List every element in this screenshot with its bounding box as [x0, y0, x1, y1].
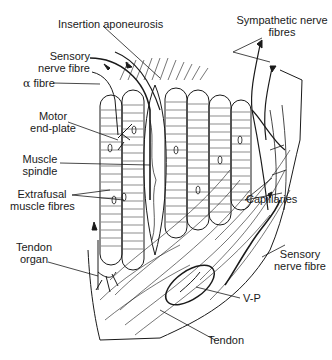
label-extrafusal-line2: muscle fibres [10, 200, 74, 212]
sensory-nerve-bottom [225, 200, 280, 285]
label-sensory-top-line2: nerve fibre [30, 62, 90, 74]
label-motor-end-plate: Motor end-plate [28, 110, 78, 134]
label-sensory-top-line1: Sensory [30, 50, 90, 62]
vater-pacini-corpuscle [159, 257, 221, 312]
extrafusal-fibres [100, 88, 251, 270]
alpha-fibre-text: fibre [30, 77, 54, 89]
label-muscle-spindle: Muscle spindle [20, 153, 60, 177]
label-motor-line1: Motor [28, 110, 78, 122]
label-tendon-organ-line2: organ [14, 253, 54, 265]
label-sympathetic-nerve-fibres: Sympathetic nerve fibres [232, 14, 332, 38]
label-motor-line2: end-plate [28, 122, 78, 134]
sympathetic-nerves [252, 45, 285, 210]
label-sensory-nerve-fibre-bottom: Sensory nerve fibre [268, 248, 332, 272]
tendon-organ [96, 240, 118, 292]
label-sympathetic-line2: fibres [232, 26, 332, 38]
label-insertion-aponeurosis: Insertion aponeurosis [58, 18, 163, 30]
label-extrafusal-line1: Extrafusal [10, 188, 74, 200]
tendon-fibres [100, 150, 290, 335]
alpha-fibre-path [92, 72, 118, 135]
label-sensory-bottom-line2: nerve fibre [268, 260, 332, 272]
muscle-spindle [144, 85, 167, 255]
label-spindle-line2: spindle [20, 165, 60, 177]
label-sensory-nerve-fibre-top: Sensory nerve fibre [30, 50, 90, 74]
label-alpha-fibre: α fibre [23, 77, 55, 90]
label-tendon-organ: Tendon organ [14, 241, 54, 265]
label-sympathetic-line1: Sympathetic nerve [232, 14, 332, 26]
label-tendon-organ-line1: Tendon [14, 241, 54, 253]
label-sensory-bottom-line1: Sensory [268, 248, 332, 260]
label-extrafusal-muscle-fibres: Extrafusal muscle fibres [10, 188, 74, 212]
label-tendon: Tendon [208, 334, 244, 346]
label-capillaries: Capillaries [246, 193, 297, 205]
label-vp: V-P [243, 292, 261, 304]
label-spindle-line1: Muscle [20, 153, 60, 165]
